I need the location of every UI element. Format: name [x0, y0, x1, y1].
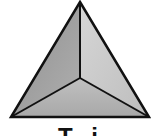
tetrahedron-icon	[0, 0, 162, 136]
tetrahedron-diagram	[0, 0, 162, 136]
diagram-caption: T i	[0, 123, 162, 136]
